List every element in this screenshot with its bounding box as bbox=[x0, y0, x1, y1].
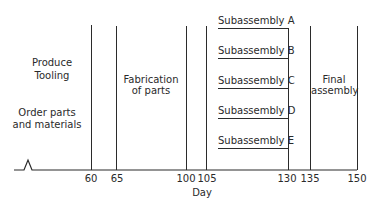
tick-60: 60 bbox=[85, 173, 98, 184]
subassembly-e-bar bbox=[218, 148, 288, 149]
subassembly-a-label: Subassembly A bbox=[218, 15, 295, 27]
subassembly-b-label: Subassembly B bbox=[218, 45, 295, 57]
day-135-line bbox=[310, 26, 311, 170]
subassembly-b-bar bbox=[218, 58, 288, 59]
day-100-line bbox=[186, 26, 187, 170]
day-105-line bbox=[206, 26, 207, 170]
subassembly-a-bar bbox=[218, 28, 288, 29]
subassembly-e-label: Subassembly E bbox=[218, 135, 294, 147]
tick-100: 100 bbox=[176, 173, 195, 184]
tick-130: 130 bbox=[277, 173, 296, 184]
subassembly-d-label: Subassembly D bbox=[218, 105, 295, 117]
axis-label-day: Day bbox=[190, 187, 214, 199]
subassembly-c-label: Subassembly C bbox=[218, 75, 295, 87]
tick-135: 135 bbox=[300, 173, 319, 184]
subassembly-d-bar bbox=[218, 118, 288, 119]
day-150-line bbox=[357, 26, 358, 170]
tick-65: 65 bbox=[111, 173, 124, 184]
tick-105: 105 bbox=[197, 173, 216, 184]
day-65-line bbox=[116, 26, 117, 170]
subassembly-c-bar bbox=[218, 88, 288, 89]
day-60-line bbox=[91, 25, 92, 170]
tick-150: 150 bbox=[347, 173, 366, 184]
